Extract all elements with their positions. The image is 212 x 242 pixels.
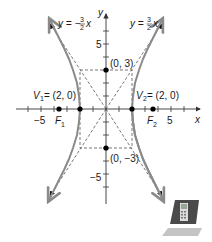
point-0-neg3-label: (0, −3) [110,153,139,164]
focus-f1-label: F 1 [55,115,65,128]
x-tick-label-neg5: −5 [34,115,46,126]
vertex-v1-label: V 1 = (2, 0) [33,90,76,102]
vertex-v1-point [77,106,82,111]
svg-text:3: 3 [147,16,151,23]
svg-text:2: 2 [147,24,151,31]
y-tick-label-neg5: −5 [90,172,102,183]
y-tick-label-5: 5 [96,39,102,50]
asymptote-label-positive: y = 3 2 x [129,16,159,31]
x-tick-label-5: 5 [167,115,173,126]
y-axis-label: y [97,7,104,18]
svg-text:x: x [85,18,92,29]
svg-text:1: 1 [61,121,65,128]
svg-text:x: x [152,18,159,29]
vertex-v2-point [129,106,134,111]
svg-text:= (2, 0): = (2, 0) [44,90,76,101]
svg-text:y = −: y = − [57,18,80,29]
point-0-3-label: (0, 3) [110,58,133,69]
focus-f2-point [150,106,155,111]
svg-text:2: 2 [153,121,157,128]
svg-text:y =: y = [129,18,144,29]
focus-f2-label: F 2 [147,115,157,128]
x-axis [16,106,200,112]
svg-text:3: 3 [80,16,84,23]
point-0-neg3 [103,145,108,150]
svg-text:= (2, 0): = (2, 0) [147,90,179,101]
asymptote-label-negative: y = − 3 2 x [57,16,92,31]
focus-f1-point [56,106,61,111]
graphing-calculator-icon [162,200,202,236]
hyperbola-figure: y x −5 5 5 −5 y = − 3 2 x y = 3 2 x V 1 … [0,0,212,242]
x-axis-label: x [194,114,201,125]
point-0-3 [103,67,108,72]
svg-text:2: 2 [80,24,84,31]
vertex-v2-label: V 2 = (2, 0) [136,90,179,102]
